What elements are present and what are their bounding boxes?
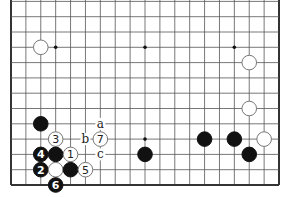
black-stone (33, 117, 48, 132)
white-stone: 3 (48, 132, 63, 147)
white-stone (242, 55, 257, 70)
white-stone: 1 (63, 147, 78, 162)
star-point (143, 46, 147, 50)
black-stone (227, 132, 242, 147)
move-number: 7 (97, 133, 104, 146)
move-number: 3 (52, 133, 59, 146)
white-stone: 5 (78, 162, 93, 177)
white-stone: 7 (93, 132, 108, 147)
move-number: 2 (37, 164, 45, 177)
move-number: 5 (82, 164, 89, 177)
move-number: 6 (52, 179, 60, 192)
white-stone (257, 132, 272, 147)
white-stone (48, 162, 63, 177)
white-stone (242, 101, 257, 116)
black-stone (63, 162, 78, 177)
star-point (54, 46, 58, 50)
point-letter: a (97, 117, 104, 131)
star-point (233, 46, 237, 50)
black-stone (138, 147, 153, 162)
black-stone: 6 (48, 178, 63, 193)
go-board: 3741256 abc (0, 0, 284, 197)
black-stone: 2 (33, 162, 48, 177)
move-number: 4 (37, 148, 45, 161)
point-letter: b (82, 132, 90, 146)
white-stone (33, 40, 48, 55)
point-letter: c (97, 147, 104, 161)
star-point (143, 137, 147, 141)
black-stone (242, 147, 257, 162)
black-stone: 4 (33, 147, 48, 162)
black-stone (48, 147, 63, 162)
black-stone (197, 132, 212, 147)
move-number: 1 (67, 148, 74, 161)
